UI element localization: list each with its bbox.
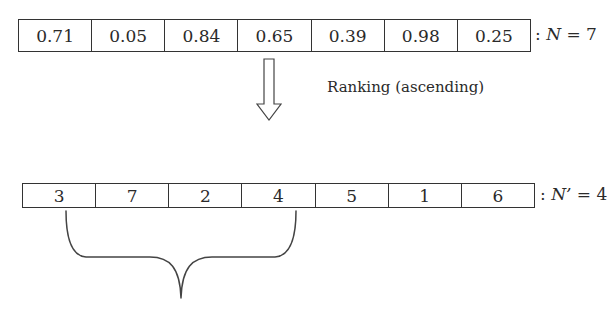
n-label-value: = 7 — [561, 24, 597, 44]
n-prime-count-label: : N’ = 4 — [540, 184, 607, 204]
value-cell: 0.84 — [165, 20, 238, 51]
value-cell: 0.39 — [312, 20, 385, 51]
ranking-label: Ranking (ascending) — [327, 78, 484, 96]
rank-cell: 1 — [389, 184, 462, 207]
rank-cell: 6 — [462, 184, 534, 207]
value-cell: 0.98 — [385, 20, 458, 51]
n-label-var: N — [546, 24, 561, 44]
rank-cell: 4 — [242, 184, 315, 207]
value-cell: 0.65 — [238, 20, 311, 51]
rank-cell: 5 — [316, 184, 389, 207]
n-label-prefix: : — [535, 24, 541, 44]
rank-cell: 7 — [96, 184, 169, 207]
n-prime-label-prefix: : — [540, 184, 546, 204]
value-cell: 0.05 — [92, 20, 165, 51]
hollow-down-arrow-icon — [257, 59, 281, 120]
rank-cell: 2 — [169, 184, 242, 207]
rank-cell: 3 — [23, 184, 96, 207]
value-cell: 0.25 — [458, 20, 530, 51]
ranked-indices-array: 3 7 2 4 5 1 6 — [22, 183, 535, 208]
n-prime-label-var: N’ — [551, 184, 571, 204]
input-values-array: 0.71 0.05 0.84 0.65 0.39 0.98 0.25 — [18, 19, 531, 52]
value-cell: 0.71 — [19, 20, 92, 51]
n-prime-label-value: = 4 — [571, 184, 607, 204]
n-count-label: : N = 7 — [535, 24, 597, 44]
curly-brace-icon — [66, 211, 296, 298]
